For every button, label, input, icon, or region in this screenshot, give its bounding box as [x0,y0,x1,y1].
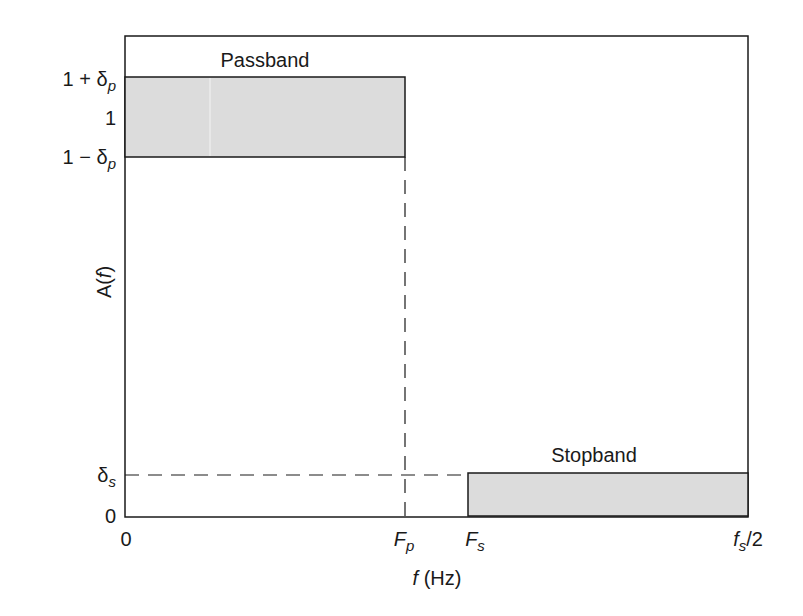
xtick-fs-half: fs/2 [733,528,763,554]
y-axis-title: A(f) [93,266,115,298]
filter-spec-diagram: Passband Stopband 1 + δp 1 1 − δp δs 0 0… [0,0,803,616]
passband-label: Passband [221,49,310,71]
ytick-one: 1 [105,107,116,129]
xtick-fs: Fs [465,528,485,554]
xtick-fp: Fp [394,528,415,554]
xtick-zero: 0 [120,528,131,550]
stopband-label: Stopband [551,444,637,466]
ytick-one-minus-delta-p: 1 − δp [63,146,116,172]
stopband-region [468,473,748,516]
ytick-one-plus-delta-p: 1 + δp [63,68,116,94]
x-axis-title: f (Hz) [413,567,462,589]
ytick-zero: 0 [105,505,116,527]
ytick-delta-s: δs [97,464,116,490]
passband-region [125,77,405,157]
